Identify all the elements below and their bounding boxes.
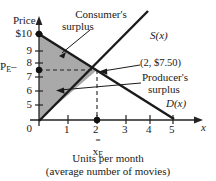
y-tick-label-6: 6 <box>4 85 32 96</box>
point-equilibrium-price-pe <box>36 67 42 73</box>
x-axis-arrow-label: x <box>201 122 206 133</box>
supply-demand-chart: Price $10 9 8 7 6 5 0 PE– 1 2 3 4 5 x = … <box>0 0 216 181</box>
producer-surplus-line1: Producer's <box>142 71 206 83</box>
x-tick-label-1: 1 <box>64 124 70 135</box>
chart-caption-line1: Units per month <box>0 152 216 165</box>
producer-surplus-callout: Producer's surplus <box>142 71 206 96</box>
chart-caption-line2: (average number of movies) <box>0 165 216 178</box>
equilibrium-price-label: PE– <box>0 61 17 74</box>
supply-curve-label: S(x) <box>150 30 168 41</box>
equilibrium-price-label-dash: – <box>11 60 17 72</box>
consumer-surplus-leader-line <box>62 30 90 53</box>
equilibrium-quantity-eq: = <box>88 136 108 145</box>
y-tick-label-10: $10 <box>4 28 32 39</box>
y-tick-label-0: 0 <box>4 123 32 134</box>
equilibrium-point-annotation: (2, $7.50) <box>140 58 181 69</box>
x-tick-label-4: 4 <box>146 124 152 135</box>
y-axis-title: Price <box>13 15 36 26</box>
chart-caption: Units per month (average number of movie… <box>0 152 216 178</box>
surplus-shaded-region <box>39 34 97 120</box>
x-tick-label-5: 5 <box>169 124 175 135</box>
consumer-surplus-callout: Consumer's surplus <box>60 8 142 33</box>
consumer-surplus-line2: surplus <box>60 20 142 32</box>
point-price-intercept-10 <box>36 31 42 37</box>
y-tick-label-9: 9 <box>4 45 32 56</box>
producer-surplus-line2: surplus <box>142 83 206 95</box>
equilibrium-point-leader-line <box>103 65 140 71</box>
x-tick-label-3: 3 <box>122 124 128 135</box>
demand-curve-label: D(x) <box>166 98 186 109</box>
consumer-surplus-line1: Consumer's <box>60 8 142 20</box>
x-tick-label-2: 2 <box>93 124 99 135</box>
y-axis-arrowhead <box>36 16 43 25</box>
y-tick-label-5: 5 <box>4 99 32 110</box>
